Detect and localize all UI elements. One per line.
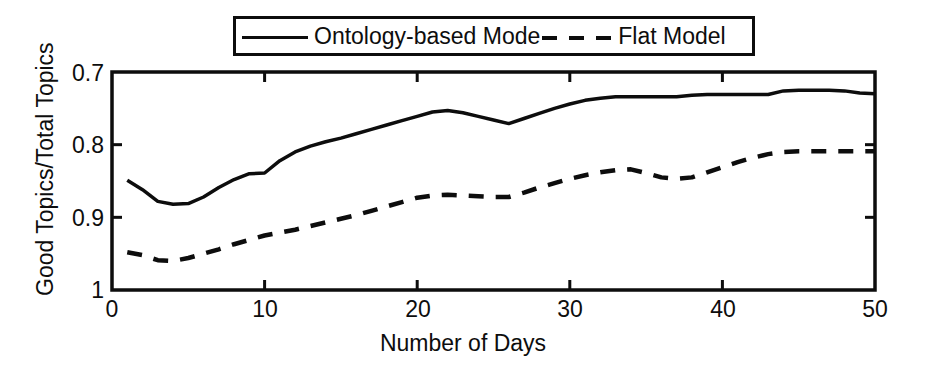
legend-entry-ontology: Ontology-based Mode [236,19,540,53]
x-tick-label: 0 [82,296,142,323]
x-tick-label: 10 [235,296,295,323]
data-series-layer [127,90,875,261]
x-tick-label: 30 [540,296,600,323]
legend-line-sample-solid-icon [236,29,314,43]
x-tick-label: 40 [693,296,753,323]
y-tick-label: 0.7 [52,60,104,87]
legend-label-flat: Flat Model [618,25,725,48]
legend-label-ontology: Ontology-based Mode [314,25,540,48]
y-axis-title: Good Topics/Total Topics [32,42,59,296]
axis-tick-marks [112,72,875,290]
x-tick-label: 20 [388,296,448,323]
legend-line-sample-dashed-icon [540,29,618,43]
plot-frame [112,72,875,290]
series-line-ontology-based-mode [127,90,875,204]
x-tick-label: 50 [845,296,905,323]
legend-entry-flat: Flat Model [540,19,725,53]
x-axis-title: Number of Days [0,330,926,357]
series-line-flat-model [127,151,875,261]
chart-legend: Ontology-based Mode Flat Model [233,16,755,56]
chart-figure: 0.7 0.8 0.9 1 0 10 20 30 40 50 Number of… [0,0,926,374]
